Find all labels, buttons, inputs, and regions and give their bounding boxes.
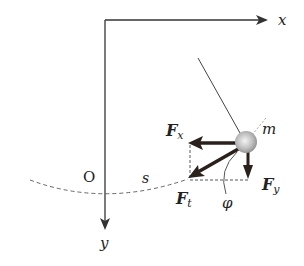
pendulum-path: [30, 179, 188, 194]
angle-label: φ: [222, 194, 233, 212]
y-axis-label: y: [99, 234, 109, 252]
origin-label: O: [83, 168, 95, 186]
angle-arc: [224, 152, 237, 194]
mass-label: m: [262, 120, 276, 138]
fx-label: Fx: [165, 121, 184, 142]
x-axis-label: x: [278, 11, 287, 29]
fx-arrow: [188, 136, 238, 150]
y-axis: [100, 20, 110, 230]
pendulum-bob: [235, 131, 257, 153]
arc-length-label: s: [142, 170, 149, 186]
pendulum-diagram: x y O s φ m Fx Fy Ft: [0, 0, 304, 266]
pendulum-string: [198, 58, 240, 133]
ft-label: Ft: [175, 189, 192, 210]
x-axis: [105, 15, 268, 25]
fy-arrow: [243, 150, 253, 179]
ft-arrow: [188, 148, 240, 178]
fy-label: Fy: [261, 175, 280, 196]
